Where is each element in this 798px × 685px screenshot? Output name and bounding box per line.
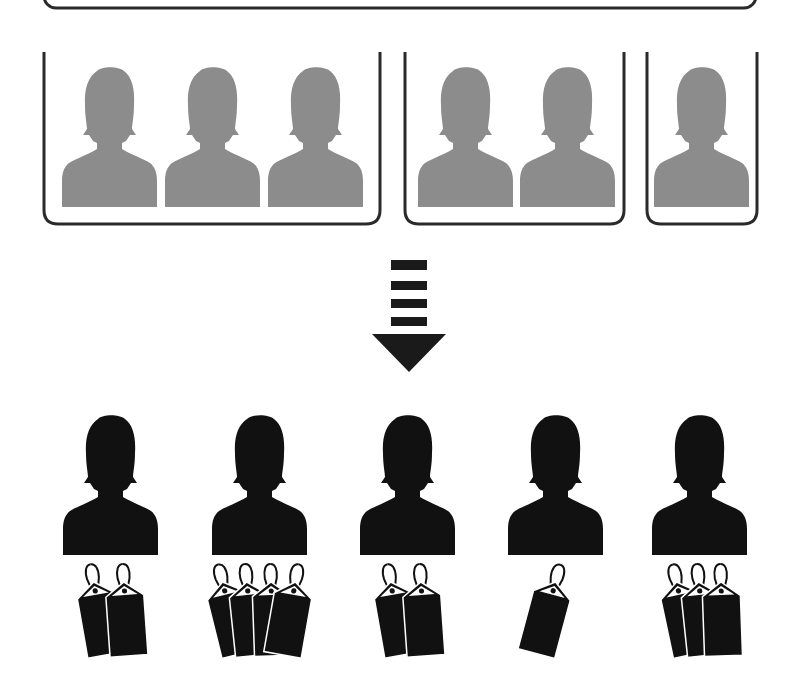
group-1 bbox=[44, 52, 380, 224]
tags-3 bbox=[654, 560, 742, 658]
gray-person-icon bbox=[654, 67, 749, 207]
arrow-bar bbox=[391, 260, 427, 270]
gray-person-icon bbox=[520, 67, 615, 207]
black-person-icon bbox=[360, 415, 455, 555]
diagram-canvas bbox=[0, 0, 798, 685]
tag-icon bbox=[104, 563, 148, 657]
black-person-icon bbox=[652, 415, 747, 555]
person-4 bbox=[508, 415, 603, 658]
tags-4 bbox=[200, 560, 317, 658]
down-arrow-icon bbox=[372, 260, 446, 372]
gray-person-icon bbox=[62, 67, 157, 207]
tag-icon bbox=[264, 561, 317, 658]
top-frame-border bbox=[44, 0, 756, 8]
tag-icon bbox=[401, 563, 445, 657]
top-frame bbox=[44, 0, 756, 8]
person-5 bbox=[652, 415, 747, 658]
tags-2 bbox=[369, 561, 445, 658]
black-person-icon bbox=[63, 415, 158, 555]
tags-2 bbox=[72, 561, 148, 658]
arrow-bar bbox=[391, 317, 427, 326]
gray-person-icon bbox=[268, 67, 363, 207]
arrow-head bbox=[372, 334, 446, 372]
gray-person-icon bbox=[418, 67, 513, 207]
person-2 bbox=[200, 415, 317, 658]
group-2 bbox=[405, 52, 624, 224]
black-person-icon bbox=[212, 415, 307, 555]
arrow-bar bbox=[391, 299, 427, 308]
arrow-bar bbox=[391, 281, 427, 290]
tag-icon bbox=[518, 560, 579, 659]
tags-1 bbox=[518, 560, 579, 659]
individuals bbox=[63, 415, 747, 658]
tag-icon bbox=[701, 563, 742, 656]
black-person-icon bbox=[508, 415, 603, 555]
person-3 bbox=[360, 415, 455, 658]
groups bbox=[44, 52, 757, 224]
person-1 bbox=[63, 415, 158, 658]
gray-person-icon bbox=[165, 67, 260, 207]
group-3 bbox=[647, 52, 757, 224]
